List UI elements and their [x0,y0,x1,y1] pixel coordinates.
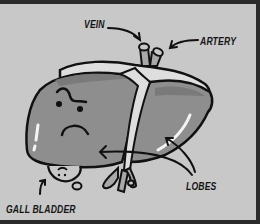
label-artery: ARTERY [200,35,236,47]
label-vein: VEIN [84,18,105,30]
diagram-panel: VEIN ARTERY LOBES GALL BLADDER [0,4,256,220]
vein-arrow [108,28,140,40]
label-lobes: LOBES [186,180,216,192]
gall-bladder [48,166,82,190]
artery-arrow [170,40,198,48]
right-eye [78,107,82,111]
lower-vessels [103,168,136,192]
left-eye [57,102,61,106]
label-gall-bladder: GALL BLADDER [6,203,76,215]
frame: VEIN ARTERY LOBES GALL BLADDER [0,0,260,224]
gall-bladder-arrow [40,180,45,194]
left-lobe [26,73,138,168]
vessels [139,44,164,67]
